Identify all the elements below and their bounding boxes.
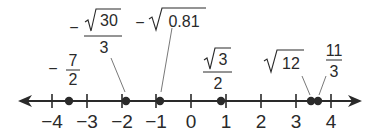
- denominator: 2: [214, 75, 223, 92]
- tick-label: 2: [256, 111, 267, 132]
- minus-sign: −: [69, 19, 78, 36]
- label-neg-sqrt-081: − 0.81: [135, 8, 206, 31]
- point-sqrt3-over-2: [217, 97, 225, 105]
- radicand: 12: [282, 55, 300, 72]
- minus-sign: −: [48, 60, 57, 77]
- point-neg-sqrt-081: [156, 97, 164, 105]
- point-neg-sqrt30-over-3: [122, 97, 130, 105]
- numerator: 7: [69, 52, 78, 69]
- denominator: 3: [330, 63, 339, 80]
- number-line-diagram: −4 −3 −2 −1 0 1 2 3 4 − 7 2 − 30 3: [0, 0, 372, 133]
- tick-label: 0: [186, 111, 197, 132]
- tick-label: 1: [221, 111, 232, 132]
- label-sqrt3-over-2: 3 2: [203, 48, 232, 92]
- label-neg-seven-halves: − 7 2: [48, 52, 80, 88]
- point-eleven-thirds: [314, 97, 322, 105]
- label-neg-sqrt30-over-3: − 30 3: [69, 9, 122, 56]
- tick-label: −1: [145, 111, 167, 132]
- tick-label: 4: [326, 111, 337, 132]
- numerator: 11: [326, 42, 343, 59]
- denominator: 2: [69, 71, 78, 88]
- point-neg-seven-halves: [65, 97, 73, 105]
- tick-label: −2: [111, 111, 133, 132]
- minus-sign: −: [135, 14, 144, 31]
- tick-label: −3: [76, 111, 98, 132]
- tick-label: −4: [41, 111, 63, 132]
- denominator: 3: [100, 39, 109, 56]
- label-eleven-thirds: 11 3: [326, 42, 343, 80]
- tick-labels: −4 −3 −2 −1 0 1 2 3 4: [41, 111, 337, 132]
- tick-label: 3: [291, 111, 302, 132]
- radicand: 0.81: [168, 13, 199, 30]
- radicand: 30: [100, 12, 118, 29]
- label-sqrt12: 12: [264, 50, 304, 72]
- radicand: 3: [219, 51, 228, 68]
